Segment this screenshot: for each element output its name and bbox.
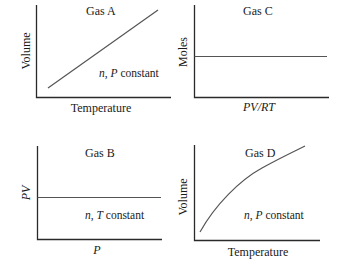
gas-a-xlabel: Temperature [71, 101, 131, 115]
gas-c-axes [195, 5, 330, 98]
gas-b-condition-rest: constant [103, 209, 145, 221]
panel-gas-c: Gas C PV/RT Moles [176, 4, 329, 114]
gas-d-condition-rest: constant [263, 209, 305, 221]
gas-a-axes [37, 5, 172, 98]
gas-a-condition-rest: constant [118, 67, 160, 79]
gas-d-title: Gas D [245, 146, 276, 160]
gas-b-title: Gas B [85, 146, 115, 160]
gas-b-xlabel: P [92, 243, 101, 257]
gas-d-condition-var2: P [255, 209, 263, 221]
gas-c-ylabel: Moles [176, 37, 190, 67]
gas-b-axes [38, 146, 163, 240]
gas-d-ylabel: Volume [176, 178, 190, 215]
gas-a-ylabel: Volume [19, 32, 33, 69]
gas-b-condition: n, T constant [85, 209, 145, 222]
panel-gas-d: Gas D n, P constant Temperature Volume [176, 145, 320, 259]
panel-gas-b: Gas B n, T constant P PV [19, 146, 162, 257]
gas-c-title: Gas C [243, 4, 273, 18]
gas-a-condition-var2: P [110, 67, 118, 79]
gas-c-xlabel: PV/RT [242, 100, 276, 114]
gas-d-xlabel: Temperature [228, 245, 288, 259]
gas-law-diagrams: Gas A n, P constant Temperature Volume G… [0, 0, 341, 266]
gas-b-ylabel: PV [19, 184, 33, 201]
gas-a-title: Gas A [86, 4, 116, 18]
panel-gas-a: Gas A n, P constant Temperature Volume [19, 4, 171, 115]
gas-a-condition: n, P constant [99, 67, 160, 80]
gas-d-condition: n, P constant [244, 209, 305, 222]
